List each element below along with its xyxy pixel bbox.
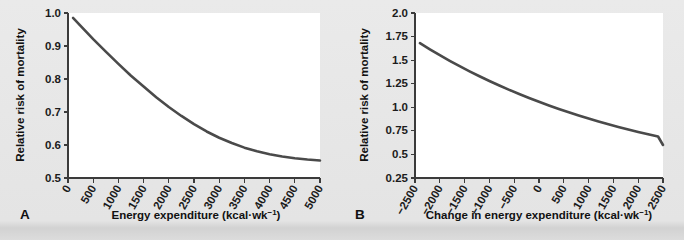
y-tick-label: 0.75	[386, 124, 409, 136]
x-tick-label: −500	[496, 183, 519, 211]
y-axis-title-a: Relative risk of mortality	[14, 28, 26, 162]
plot-area-a	[68, 13, 320, 178]
chart-panel-a: 0.50.60.70.80.91.0 050010001500200025003…	[0, 0, 342, 240]
y-ticks-a: 0.50.60.70.80.91.0	[45, 7, 68, 184]
x-tick-label: −2500	[394, 183, 421, 217]
y-tick-label: 0.6	[45, 139, 61, 151]
x-tick-label: 0	[531, 183, 545, 195]
panel-letter-a: A	[20, 207, 30, 222]
y-tick-label: 0.25	[386, 172, 409, 184]
x-tick-label: 500	[78, 183, 98, 206]
y-axis-title-b: Relative risk of mortality	[358, 28, 370, 162]
y-tick-label: 1.25	[386, 77, 409, 89]
x-tick-label: 1500	[595, 183, 618, 211]
x-tick-label: 2500	[645, 183, 668, 211]
x-axis-title-b: Change in energy expenditure (kcal·wk−1)	[426, 208, 653, 222]
y-tick-label: 1.0	[392, 101, 408, 113]
x-tick-label: 0	[60, 183, 74, 195]
figure-container: 0.50.60.70.80.91.0 050010001500200025003…	[0, 0, 684, 240]
x-tick-label: 4500	[277, 183, 300, 211]
y-ticks-b: 0.250.50.751.01.251.51.752.0	[386, 7, 415, 184]
x-axis-title-a: Energy expenditure (kcal·wk−1)	[112, 208, 281, 222]
x-tick-label: 1500	[126, 183, 149, 211]
x-tick-label: 2000	[151, 183, 174, 211]
y-tick-label: 0.9	[45, 40, 61, 52]
y-tick-label: 1.5	[392, 54, 409, 66]
y-tick-label: 1.75	[386, 30, 409, 42]
y-tick-label: 1.0	[45, 7, 61, 19]
x-tick-label: 2500	[176, 183, 199, 211]
y-tick-label: 0.5	[392, 148, 409, 160]
y-tick-label: 0.7	[45, 106, 61, 118]
y-tick-label: 0.5	[45, 172, 62, 184]
x-tick-label: 3500	[226, 183, 249, 211]
y-tick-label: 2.0	[392, 7, 408, 19]
x-tick-label: 500	[549, 183, 569, 206]
y-tick-label: 0.8	[45, 73, 62, 85]
chart-panel-b: 0.250.50.751.01.251.51.752.0 −2500−2000−…	[342, 0, 684, 240]
x-tick-label: 5000	[302, 183, 325, 211]
x-tick-label: 1000	[571, 183, 594, 211]
x-ticks-a: 0500100015002000250030003500400045005000	[60, 178, 326, 211]
plot-area-b	[415, 13, 663, 178]
panel-letter-b: B	[355, 207, 365, 222]
chart-a-svg: 0.50.60.70.80.91.0 050010001500200025003…	[0, 0, 342, 240]
chart-b-svg: 0.250.50.751.01.251.51.752.0 −2500−2000−…	[342, 0, 684, 240]
x-tick-label: 1000	[100, 183, 123, 211]
x-tick-label: 3000	[201, 183, 224, 211]
